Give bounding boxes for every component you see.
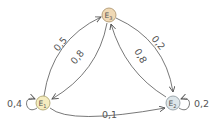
edge-label-e3-e2: 0,2	[149, 33, 167, 52]
self-loop-e1	[27, 98, 37, 110]
edge-label-e1-e3: 0,5	[51, 35, 69, 54]
node-e1: E1	[36, 96, 50, 110]
markov-diagram: 0,5 0,8 0,2 0,8 0,1 0,4 0,2 E1 E2 E3	[0, 0, 217, 130]
node-e3: E3	[102, 8, 116, 22]
self-loop-e2	[179, 98, 189, 110]
edge-label-e3-e1: 0,8	[68, 48, 86, 67]
edge-label-e1-e2: 0,1	[102, 109, 117, 120]
edge-label-e2-e3: 0,8	[132, 47, 149, 66]
edge-label-e1-loop: 0,4	[7, 98, 22, 109]
edge-label-e2-loop: 0,2	[194, 98, 209, 109]
node-e2: E2	[166, 96, 180, 110]
